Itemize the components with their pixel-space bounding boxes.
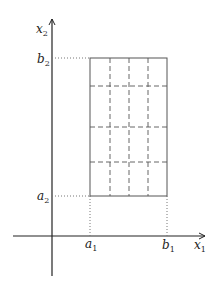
a1-label: a1	[85, 237, 97, 253]
x2-axis-label: x2	[36, 22, 48, 38]
partition-grid	[90, 58, 167, 196]
b1-label: b1	[162, 238, 175, 254]
a2-label: a2	[37, 189, 49, 205]
diagram-canvas: x2 b2 a2 a1 b1 x1	[0, 0, 216, 286]
dotted-guides	[52, 58, 167, 236]
x1-axis-label: x1	[194, 238, 206, 254]
b2-label: b2	[37, 52, 50, 68]
